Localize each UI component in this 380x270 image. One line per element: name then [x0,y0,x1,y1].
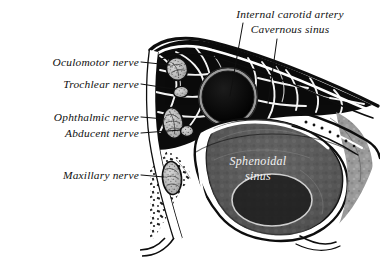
label-sphenoidal-sinus-line2: sinus [245,169,271,183]
label-ophthalmic-nerve: Ophthalmic nerve [54,111,139,123]
internal-carotid-artery [199,68,258,127]
label-cavernous-sinus: Cavernous sinus [251,23,330,35]
label-internal-carotid-artery: Internal carotid artery [235,8,344,20]
label-oculomotor-nerve: Oculomotor nerve [53,56,139,68]
anatomy-drawing [140,36,380,256]
label-sphenoidal-sinus-line1: Sphenoidal [230,154,287,168]
label-maxillary-nerve: Maxillary nerve [62,169,139,181]
labels-top: Internal carotid artery Cavernous sinus [235,8,344,35]
abducent-nerve-oval [181,126,194,137]
figure-canvas: Oculomotor nerve Trochlear nerve Ophthal… [0,0,380,270]
labels-left: Oculomotor nerve Trochlear nerve Ophthal… [53,56,139,181]
anatomical-figure: Oculomotor nerve Trochlear nerve Ophthal… [0,0,380,270]
label-abducent-nerve: Abducent nerve [64,127,139,139]
label-trochlear-nerve: Trochlear nerve [63,78,139,90]
